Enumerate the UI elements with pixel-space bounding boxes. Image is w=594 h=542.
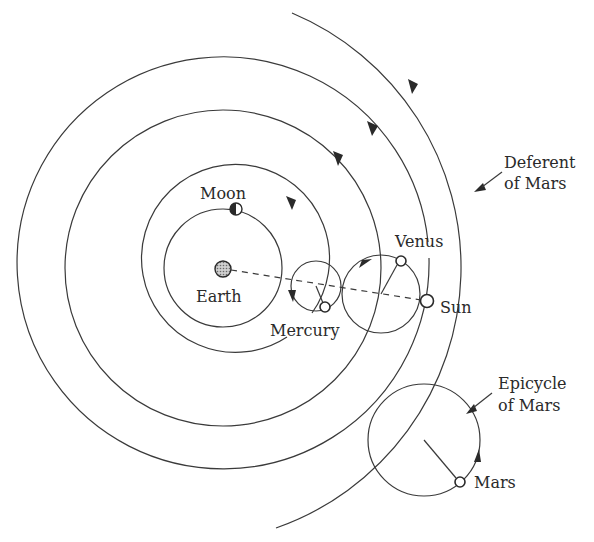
sun-deferent-arrow-icon (367, 121, 378, 136)
sun-label: Sun (440, 298, 472, 317)
mercury-deferent-arrow-icon (286, 196, 296, 210)
mercury-icon (320, 302, 330, 312)
moon-icon (230, 203, 242, 215)
mercury-label: Mercury (270, 321, 339, 340)
mars-icon (455, 477, 465, 487)
earth-label: Earth (196, 287, 242, 306)
mars-epicycle-arrow-icon (474, 449, 481, 462)
deferent-pointer-line (482, 172, 502, 187)
earth-icon (215, 261, 231, 277)
mars-spoke (424, 440, 456, 478)
mars-deferent-arrow-icon (408, 79, 418, 94)
deferent-label-line1: Deferent (504, 153, 576, 172)
venus-icon (396, 256, 406, 266)
moon-label: Moon (200, 184, 246, 203)
deferent-pointer-arrow-icon (474, 183, 486, 192)
epicycle-pointer-line (473, 393, 492, 408)
sun-icon (421, 295, 434, 308)
epicycle-label-line1: Epicycle (498, 374, 567, 393)
venus-spoke (381, 265, 397, 294)
mars-label: Mars (474, 473, 516, 492)
venus-label: Venus (394, 232, 443, 251)
ptolemaic-system-diagram: Moon Earth Mercury Venus Sun Mars Defere… (0, 0, 594, 542)
epicycle-label-line2: of Mars (498, 396, 560, 415)
deferent-label-line2: of Mars (504, 174, 566, 193)
